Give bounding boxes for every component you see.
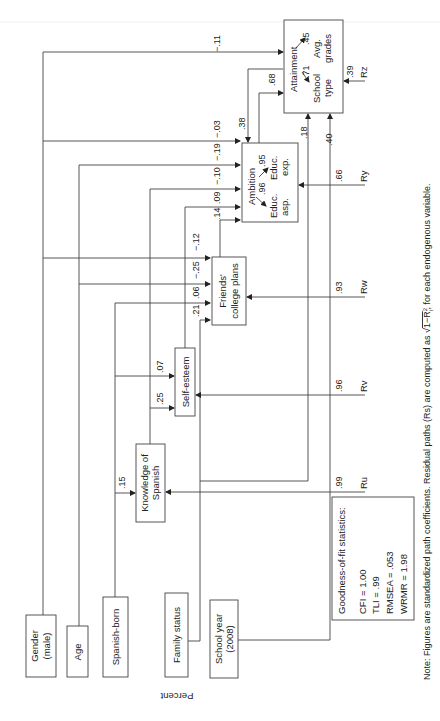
svg-text:.06: .06 [191, 286, 201, 299]
svg-text:.93: .93 [334, 281, 344, 294]
svg-text:.07: .07 [155, 360, 165, 373]
ambition-ind1b: asp. [279, 198, 290, 216]
svg-text:.25: .25 [155, 392, 165, 405]
attainment-ind2b: grades [322, 34, 333, 63]
svg-text:WRMR = 1.98: WRMR = 1.98 [398, 554, 409, 614]
svg-text:Goodness-of-fit statistics:: Goodness-of-fit statistics: [336, 507, 347, 614]
svg-text:.40: .40 [324, 133, 334, 146]
ambition-title: Ambition [246, 168, 257, 205]
svg-text:.09: .09 [212, 191, 222, 204]
svg-text:.39: .39 [345, 65, 355, 78]
svg-text:.14: .14 [212, 207, 222, 220]
svg-text:Ry: Ry [358, 170, 369, 182]
age-label: Age [72, 644, 83, 661]
spanishborn-label: Spanish-born [110, 609, 121, 666]
svg-text:.99: .99 [334, 476, 344, 489]
attainment-title: Attainment [288, 46, 299, 92]
path-diagram: Attainment .71 .45 School type Avg. grad… [0, 0, 440, 721]
schoolyear-line1: School year [213, 614, 224, 664]
svg-text:.68: .68 [267, 73, 277, 86]
ambition-load1: .96 [257, 182, 267, 195]
residuals: .39 Rz .66 Ry .93 Rw .96 Rv .99 Ru [334, 65, 369, 489]
svg-text:.21: .21 [191, 304, 201, 317]
svg-text:Ru: Ru [358, 477, 369, 489]
ambition-ind2: Educ. [268, 156, 279, 180]
svg-text:−.19: −.19 [212, 143, 222, 161]
figure-note: Note: Figures are standardized path coef… [422, 183, 434, 680]
svg-text:.66: .66 [334, 169, 344, 182]
selfesteem-label: Self-esteem [180, 357, 191, 408]
familystatus-label: Family status [171, 607, 182, 663]
svg-text:−.10: −.10 [212, 167, 222, 185]
attainment-load2: .45 [301, 32, 311, 45]
svg-text:TLI = .99: TLI = .99 [370, 576, 381, 614]
gender-line2: (male) [41, 633, 52, 660]
ambition-load2: .95 [257, 154, 267, 167]
gender-line1: Gender [29, 630, 40, 662]
stray-percent-label: Percent [160, 691, 193, 702]
svg-text:RMSEA = .053: RMSEA = .053 [384, 551, 395, 614]
attainment-ind2: Avg. [311, 39, 322, 58]
svg-text:−.25: −.25 [191, 261, 201, 279]
svg-text:.18: .18 [299, 126, 309, 139]
ambition-ind1: Educ. [268, 194, 279, 218]
svg-text:.96: .96 [334, 379, 344, 392]
svg-text:Rw: Rw [358, 280, 369, 294]
attainment-load1: .71 [301, 65, 311, 78]
svg-text:−.11: −.11 [212, 35, 222, 52]
svg-text:Rz: Rz [358, 66, 369, 78]
knowledge-line1: Knowledge of [139, 454, 150, 512]
friends-line1: Friends' [217, 274, 228, 308]
knowledge-line2: Spanish [150, 466, 161, 500]
svg-text:−.03: −.03 [212, 120, 222, 138]
svg-text:.15: .15 [117, 476, 127, 489]
schoolyear-line2: (2008) [224, 625, 235, 652]
svg-text:−.12: −.12 [191, 233, 201, 251]
svg-text:.38: .38 [237, 117, 247, 130]
svg-text:CFI = 1.00: CFI = 1.00 [357, 569, 368, 614]
friends-line2: college plans [229, 263, 240, 319]
svg-text:Rv: Rv [358, 380, 369, 392]
ambition-ind2b: exp. [279, 158, 290, 176]
attainment-ind1b: type [322, 79, 333, 97]
attainment-ind1: School [311, 74, 322, 103]
